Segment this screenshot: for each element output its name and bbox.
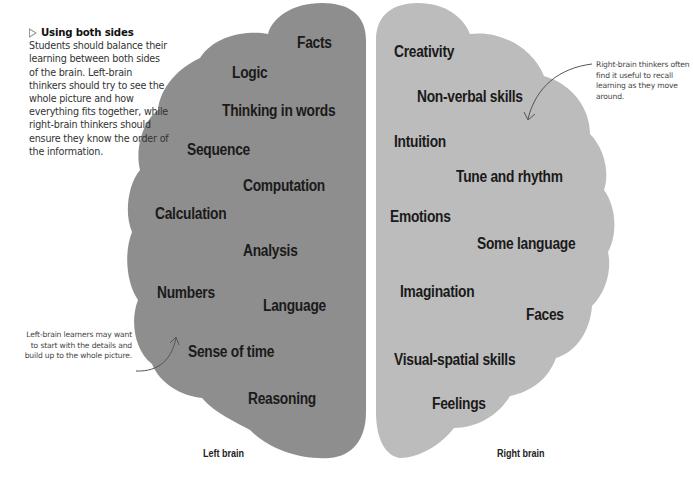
- left-brain-label: Left brain: [203, 448, 244, 459]
- right-term: Intuition: [394, 133, 446, 151]
- intro-title: Using both sides: [29, 26, 169, 39]
- brain-diagram: Using both sides Students should balance…: [0, 0, 693, 490]
- intro-text-block: Using both sides Students should balance…: [29, 26, 169, 158]
- left-term: Sequence: [187, 141, 250, 159]
- right-term: Emotions: [390, 208, 451, 226]
- right-term: Creativity: [394, 43, 454, 61]
- left-term: Reasoning: [248, 390, 316, 408]
- right-hemisphere: [376, 3, 614, 458]
- triangle-right-icon: [29, 28, 37, 38]
- right-term: Tune and rhythm: [456, 168, 563, 186]
- right-term: Imagination: [400, 283, 474, 301]
- left-term: Calculation: [155, 205, 226, 223]
- right-annotation: Right-brain thinkers often find it usefu…: [596, 60, 692, 102]
- right-term: Non-verbal skills: [417, 88, 523, 106]
- right-term: Feelings: [432, 395, 486, 413]
- left-term: Language: [263, 297, 326, 315]
- left-term: Numbers: [157, 284, 215, 302]
- right-term: Visual-spatial skills: [394, 351, 515, 369]
- left-term: Logic: [232, 64, 267, 82]
- intro-body: Students should balance their learning b…: [29, 39, 169, 158]
- left-term: Sense of time: [188, 343, 274, 361]
- left-term: Analysis: [243, 242, 298, 260]
- left-term: Computation: [243, 177, 325, 195]
- right-term: Faces: [526, 306, 564, 324]
- intro-title-text: Using both sides: [41, 26, 134, 39]
- right-term: Some language: [477, 235, 575, 253]
- left-annotation: Left-brain learners may want to start wi…: [20, 330, 132, 362]
- left-term: Facts: [297, 34, 332, 52]
- right-brain-label: Right brain: [497, 448, 545, 459]
- left-term: Thinking in words: [222, 102, 335, 120]
